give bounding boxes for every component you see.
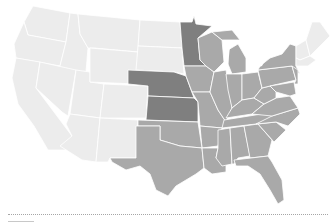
state-florida[interactable] (234, 156, 284, 204)
region-new-england (296, 22, 330, 66)
footer-source-line (8, 221, 34, 222)
state-colorado[interactable] (100, 84, 148, 118)
state-new-mexico[interactable] (96, 118, 138, 162)
footer-dotted-divider (8, 214, 328, 215)
state-maine[interactable] (306, 22, 330, 56)
us-choropleth-map (0, 0, 336, 223)
state-south-dakota[interactable] (136, 46, 184, 74)
state-north-dakota[interactable] (138, 20, 182, 48)
state-mississippi[interactable] (216, 128, 232, 166)
state-montana[interactable] (78, 14, 140, 52)
state-kansas[interactable] (146, 96, 198, 122)
